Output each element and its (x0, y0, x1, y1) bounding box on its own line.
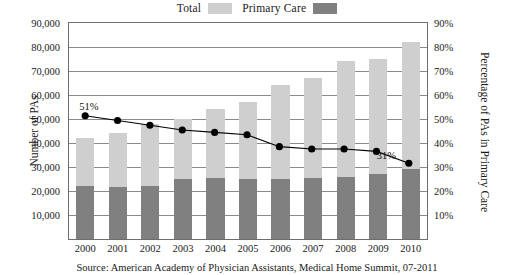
bar-column (109, 133, 127, 239)
annotation-first-point: 51% (79, 101, 98, 112)
x-axis-ticks: 2000200120022003200420052006200720082009… (68, 243, 428, 259)
bar-segment-primary-care (206, 178, 224, 239)
annotation-last-point: 31% (377, 150, 396, 161)
legend-item-total: Total (177, 2, 232, 14)
bar-segment-total (109, 133, 127, 187)
legend-swatch-total (208, 3, 232, 14)
bar-segment-primary-care (174, 179, 192, 239)
plot-area: 51%31% (68, 22, 428, 240)
bar-column (271, 85, 289, 239)
bar-segment-primary-care (271, 179, 289, 239)
bar-column (402, 42, 420, 239)
y-axis-right-title: Percentage of PAs in Primary Care (479, 16, 491, 248)
bar-segment-primary-care (304, 178, 322, 239)
bar-segment-primary-care (369, 174, 387, 239)
bar-column (174, 119, 192, 239)
y-axis-right-tick-label: 60% (434, 90, 468, 101)
y-axis-right-title-wrap: Percentage of PAs in Primary Care (474, 16, 496, 248)
y-axis-right-tick-label: 40% (434, 138, 468, 149)
y-axis-right-tick-label: 90% (434, 18, 468, 29)
bar-segment-total (402, 42, 420, 169)
bar-column (206, 109, 224, 239)
bar-column (76, 138, 94, 239)
x-axis-tick-label: 2000 (75, 243, 96, 254)
bar-column (141, 124, 159, 239)
bar-segment-total (141, 124, 159, 186)
x-axis-tick-label: 2010 (400, 243, 421, 254)
x-axis-tick-label: 2003 (172, 243, 193, 254)
x-axis-tick-label: 2002 (140, 243, 161, 254)
legend-swatch-primary-care (313, 3, 337, 14)
y-axis-right-tick-label: 20% (434, 186, 468, 197)
y-axis-left-tick-label: 40,000 (0, 138, 60, 149)
y-axis-right-tick-label: 10% (434, 210, 468, 221)
bar-segment-primary-care (337, 177, 355, 239)
x-axis-tick-label: 2009 (368, 243, 389, 254)
x-axis-tick-label: 2006 (270, 243, 291, 254)
y-axis-left-ticks: 90,00080,00070,00060,00050,00040,00030,0… (0, 22, 62, 240)
y-axis-right-tick-label: 30% (434, 162, 468, 173)
bar-segment-primary-care (76, 186, 94, 239)
chart-root: Total Primary Care Number of PAs Percent… (0, 0, 514, 275)
y-axis-right-tick-label: 50% (434, 114, 468, 125)
x-axis-tick-label: 2007 (303, 243, 324, 254)
bar-series (69, 23, 427, 239)
y-axis-left-tick-label: 70,000 (0, 66, 60, 77)
bar-segment-total (337, 61, 355, 176)
legend-label-primary-care: Primary Care (242, 2, 306, 14)
x-axis-tick-label: 2001 (107, 243, 128, 254)
bar-column (304, 78, 322, 239)
y-axis-left-tick-label: 80,000 (0, 42, 60, 53)
chart-legend: Total Primary Care (0, 2, 514, 14)
bar-column (239, 102, 257, 239)
bar-column (337, 61, 355, 239)
bar-segment-primary-care (141, 186, 159, 239)
y-axis-left-tick-label: 10,000 (0, 210, 60, 221)
y-axis-left-tick-label: 50,000 (0, 114, 60, 125)
bar-segment-total (76, 138, 94, 186)
legend-item-primary-care: Primary Care (242, 2, 337, 14)
y-axis-left-tick-label: 20,000 (0, 186, 60, 197)
bar-segment-total (304, 78, 322, 178)
source-caption: Source: American Academy of Physician As… (0, 262, 514, 273)
bar-segment-total (206, 109, 224, 177)
bar-segment-primary-care (239, 179, 257, 239)
bar-segment-total (239, 102, 257, 179)
y-axis-right-tick-label: 70% (434, 66, 468, 77)
y-axis-left-tick-label: 60,000 (0, 90, 60, 101)
x-axis-tick-label: 2008 (335, 243, 356, 254)
bar-segment-primary-care (402, 169, 420, 239)
legend-label-total: Total (177, 2, 201, 14)
y-axis-right-ticks: 90%80%70%60%50%40%30%20%10% (434, 22, 470, 240)
x-axis-tick-label: 2005 (238, 243, 259, 254)
bar-segment-primary-care (109, 187, 127, 239)
y-axis-left-tick-label: 90,000 (0, 18, 60, 29)
bar-segment-total (174, 119, 192, 179)
bar-segment-total (271, 85, 289, 179)
x-axis-tick-label: 2004 (205, 243, 226, 254)
y-axis-right-tick-label: 80% (434, 42, 468, 53)
y-axis-left-tick-label: 30,000 (0, 162, 60, 173)
